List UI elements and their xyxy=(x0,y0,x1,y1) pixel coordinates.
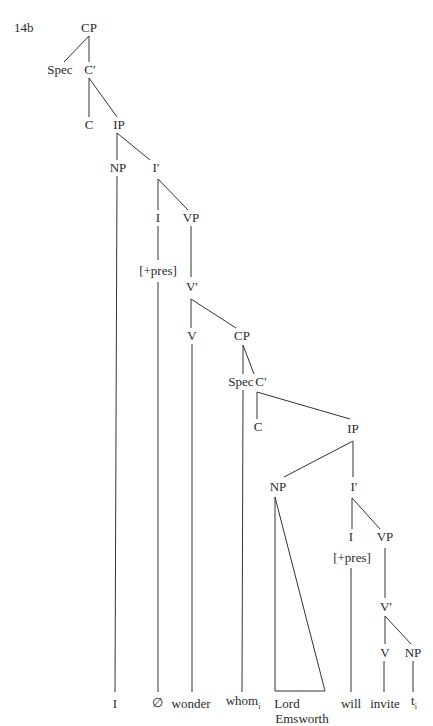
node-c-bar-embedded: C′ xyxy=(255,375,267,389)
leaf-emsworth: Emsworth xyxy=(275,712,328,726)
node-ip-embedded: IP xyxy=(347,422,359,436)
node-np-object: NP xyxy=(405,646,422,660)
node-v-embedded: V xyxy=(380,646,389,660)
node-v-bar-embedded: V′ xyxy=(380,600,392,614)
leaf-whom: whomi xyxy=(226,694,261,714)
node-spec-embedded: Spec xyxy=(228,375,253,389)
tree-branches xyxy=(0,0,433,726)
leaf-null: ∅ xyxy=(152,696,163,710)
node-c-bar: C′ xyxy=(84,63,96,77)
node-np-embedded: NP xyxy=(270,480,287,494)
node-ip: IP xyxy=(113,118,125,132)
leaf-lord: Lord xyxy=(274,697,299,711)
node-i-bar: I′ xyxy=(152,161,159,175)
node-v: V xyxy=(187,329,196,343)
leaf-i: I xyxy=(113,697,117,711)
node-vp: VP xyxy=(183,211,200,225)
node-np: NP xyxy=(110,161,127,175)
node-i-bar-embedded: I′ xyxy=(350,480,357,494)
node-feature-pres: [+pres] xyxy=(139,264,177,278)
node-spec: Spec xyxy=(47,63,72,77)
node-cp-embedded: CP xyxy=(234,329,250,343)
index-subscript: i xyxy=(258,702,260,711)
example-number: 14b xyxy=(14,21,34,35)
node-feature-pres-embedded: [+pres] xyxy=(333,551,371,565)
leaf-trace: ti xyxy=(411,694,417,714)
index-subscript: i xyxy=(415,702,417,711)
node-cp: CP xyxy=(81,21,97,35)
node-v-bar: V′ xyxy=(186,280,198,294)
node-vp-embedded: VP xyxy=(377,530,394,544)
node-i: I xyxy=(156,211,160,225)
node-c: C xyxy=(85,118,94,132)
leaf-will: will xyxy=(341,697,361,711)
node-c-embedded: C xyxy=(254,420,263,434)
node-i-embedded: I xyxy=(349,530,353,544)
leaf-wonder: wonder xyxy=(172,697,211,711)
leaf-invite: invite xyxy=(370,697,400,711)
